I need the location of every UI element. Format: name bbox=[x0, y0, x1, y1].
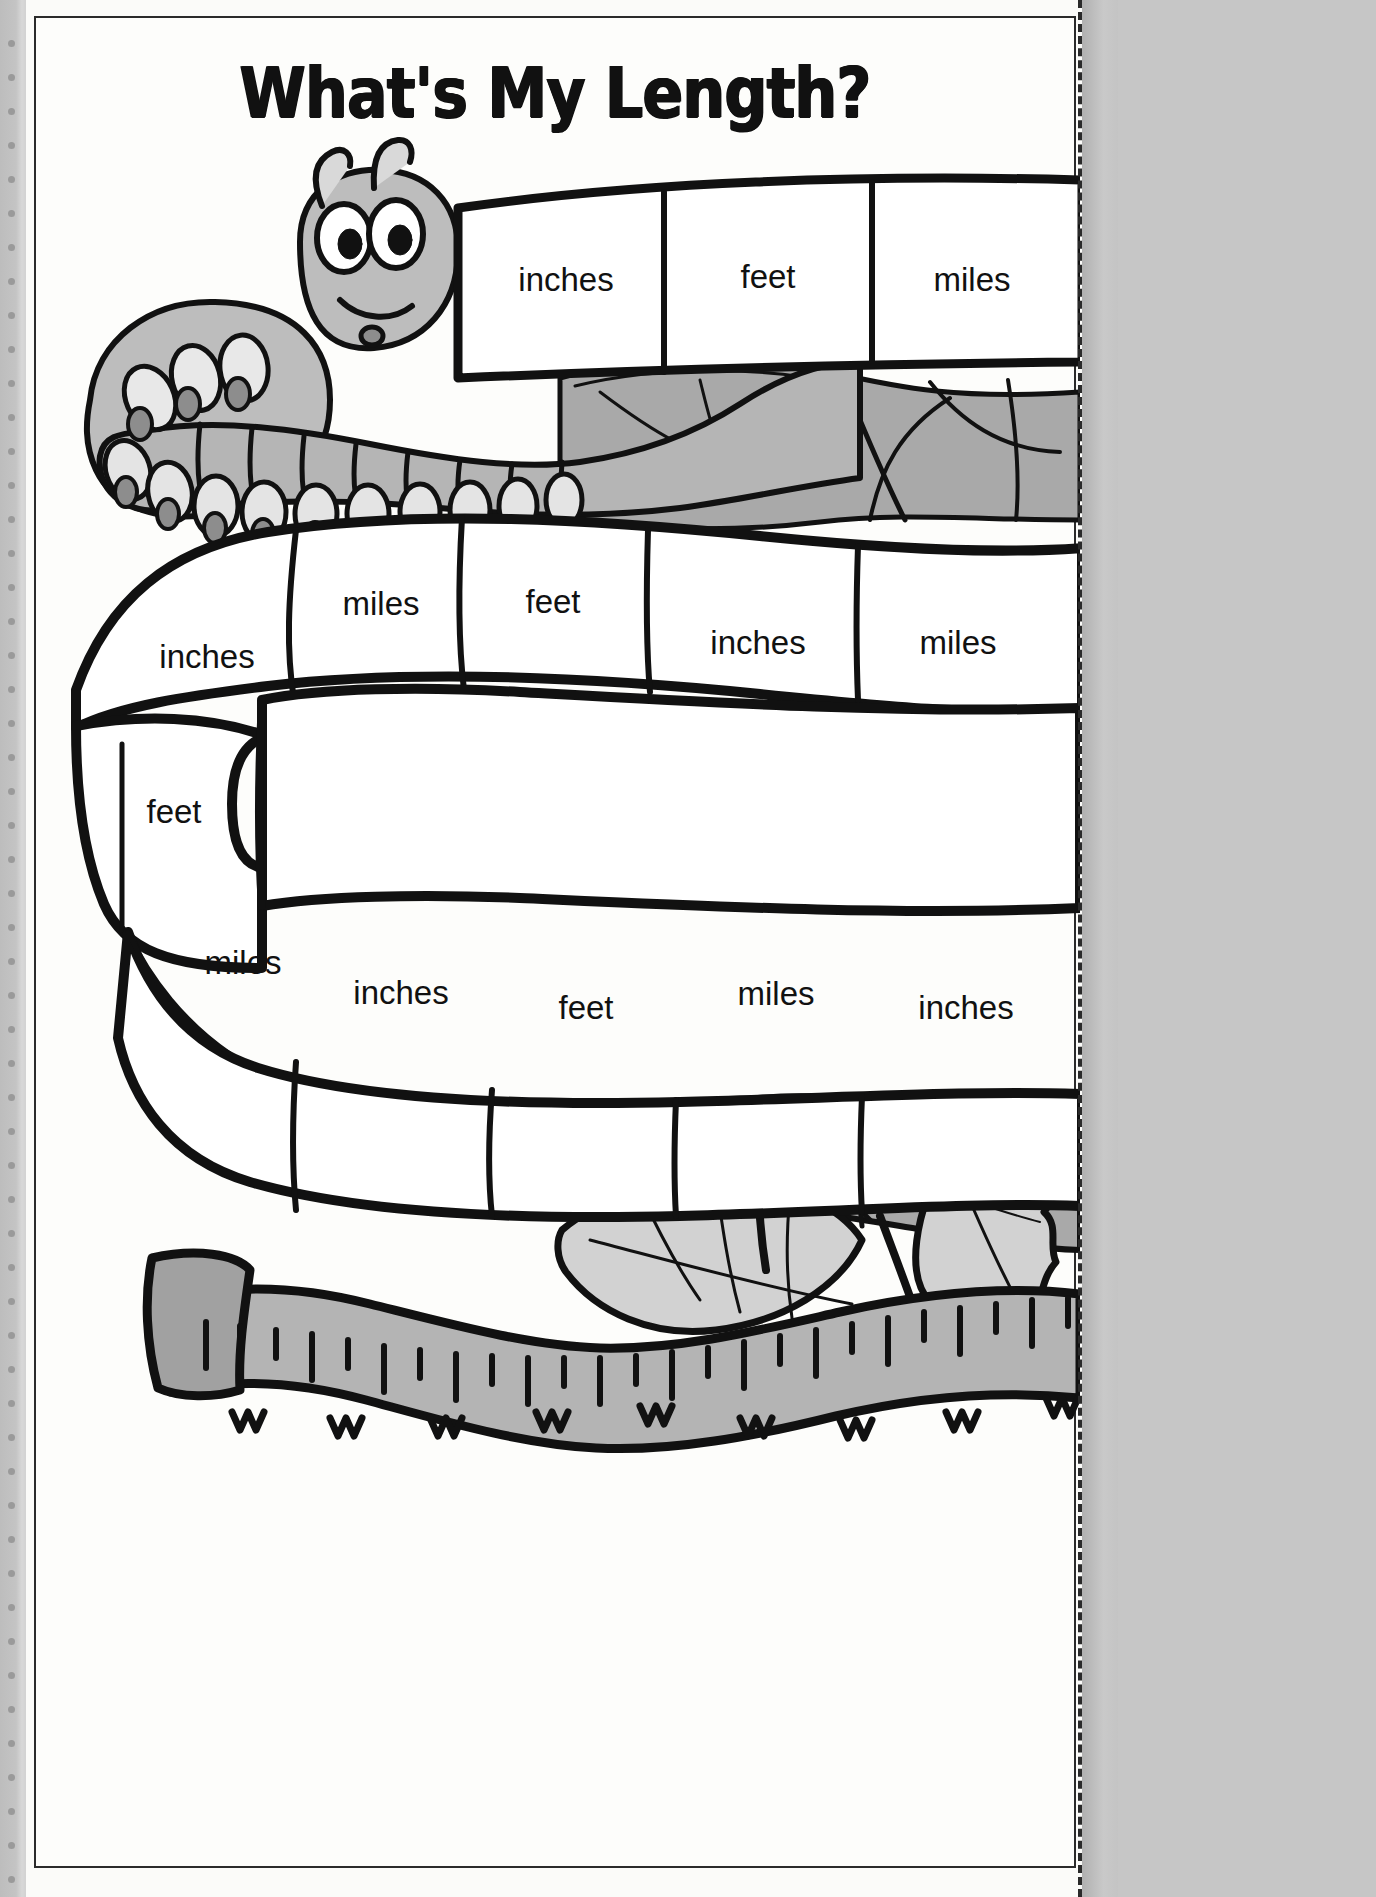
word-cell-lower-1[interactable]: miles bbox=[204, 944, 281, 982]
worksheet-page: What's My Length? bbox=[0, 0, 1376, 1897]
word-cell-lower-4[interactable]: miles bbox=[737, 975, 814, 1013]
word-cell-upper-2[interactable]: miles bbox=[342, 585, 419, 623]
word-cell-lower-5[interactable]: inches bbox=[918, 989, 1013, 1027]
word-cell-upper-4[interactable]: inches bbox=[710, 624, 805, 662]
word-cell-lower-2[interactable]: inches bbox=[353, 974, 448, 1012]
word-cell-middle-1[interactable]: feet bbox=[146, 793, 201, 831]
word-cell-top-3[interactable]: miles bbox=[933, 261, 1010, 299]
word-cell-upper-5[interactable]: miles bbox=[919, 624, 996, 662]
scan-edge-speckles bbox=[4, 0, 22, 1897]
word-cell-top-2[interactable]: feet bbox=[740, 258, 795, 296]
cut-guide-dashed-line bbox=[1078, 0, 1082, 1897]
word-cell-upper-3[interactable]: feet bbox=[525, 583, 580, 621]
word-cell-lower-3[interactable]: feet bbox=[558, 989, 613, 1027]
page-title: What's My Length? bbox=[107, 52, 1003, 134]
word-cell-upper-1[interactable]: inches bbox=[159, 638, 254, 676]
paper-right-margin bbox=[1082, 0, 1376, 1897]
word-cell-top-1[interactable]: inches bbox=[518, 261, 613, 299]
